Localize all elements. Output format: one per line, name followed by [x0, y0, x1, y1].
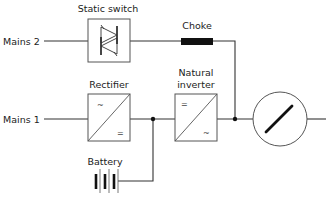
load [253, 92, 307, 146]
output-junction-dot [233, 117, 237, 121]
choke-label: Choke [182, 20, 212, 31]
inverter-label-line1: Natural [178, 67, 213, 78]
battery-icon [96, 169, 118, 193]
battery-label: Battery [87, 156, 123, 167]
rectifier-label: Rectifier [89, 79, 128, 90]
dc-symbol: = [181, 100, 188, 109]
static-switch [88, 19, 130, 62]
ac-symbol: ~ [203, 129, 210, 138]
ac-symbol: ~ [97, 101, 104, 110]
natural-inverter: = ~ [175, 94, 217, 141]
ups-diagram: Static switch Choke Mains 2 Rectifier Na… [0, 0, 326, 203]
dc-symbol: = [117, 129, 124, 138]
mains2-label: Mains 2 [3, 36, 40, 47]
inverter-label-line2: inverter [177, 79, 215, 90]
rectifier: ~ = [88, 94, 130, 141]
inductor-block-icon [181, 38, 213, 45]
dc-junction-dot [151, 117, 155, 121]
static-switch-label: Static switch [78, 3, 139, 14]
mains1-label: Mains 1 [3, 114, 40, 125]
